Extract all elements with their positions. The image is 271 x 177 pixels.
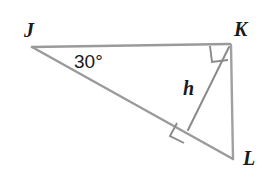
side-jk-line xyxy=(32,44,230,47)
vertex-label-k: K xyxy=(234,19,247,39)
triangle-diagram-svg xyxy=(0,0,271,177)
altitude-h-line xyxy=(188,47,229,130)
geometry-figure: J K L 30° h xyxy=(0,0,271,177)
angle-label-30-degrees: 30° xyxy=(74,52,103,71)
altitude-label-h: h xyxy=(183,78,194,98)
side-kl-line xyxy=(231,45,233,159)
side-jl-line xyxy=(32,47,233,159)
vertex-label-l: L xyxy=(243,148,255,168)
vertex-label-j: J xyxy=(24,20,34,40)
